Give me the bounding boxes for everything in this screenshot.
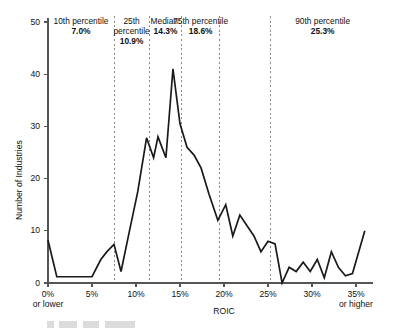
cropped-caption-strip	[47, 321, 247, 328]
distribution-line	[48, 69, 365, 283]
y-axis-tick-label: 10	[24, 225, 40, 235]
percentile-annotation-value: 10.9%	[87, 36, 177, 46]
percentile-annotation-value: 18.6%	[156, 26, 246, 36]
chart-canvas	[0, 0, 420, 328]
x-axis-title: ROIC	[184, 306, 264, 316]
y-axis-tick-label: 20	[24, 173, 40, 183]
y-axis-tick-label: 40	[24, 69, 40, 79]
roic-distribution-chart: 01020304050Number of Industries0%or lowe…	[0, 0, 420, 328]
x-axis-last-tick-sublabel: or higher	[326, 299, 386, 309]
percentile-annotation-p75: 75th percentile18.6%	[156, 16, 246, 36]
y-axis-tick-label: 0	[24, 278, 40, 288]
y-axis-title: Number of Industries	[14, 140, 24, 220]
x-axis-tick-label: 35%or higher	[326, 289, 386, 309]
percentile-annotation-title: 75th percentile	[156, 16, 246, 26]
y-axis-tick-label: 30	[24, 121, 40, 131]
percentile-annotation-value: 25.3%	[278, 26, 368, 36]
x-axis-first-tick-sublabel: or lower	[18, 299, 78, 309]
percentile-annotation-title: 90th percentile	[278, 16, 368, 26]
percentile-annotation-p90: 90th percentile25.3%	[278, 16, 368, 36]
